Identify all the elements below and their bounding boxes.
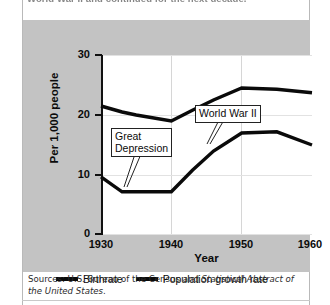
caption-text: World War II and continued for the next … <box>27 0 247 4</box>
figure-panel: 30 20 10 0 1930 1940 1950 1960 Per 1,000… <box>23 20 310 272</box>
annotation-great-depression: Great Depression <box>111 128 172 157</box>
bottom-rule <box>22 300 310 301</box>
source-note: Sources: U.S. Bureau of the Census and S… <box>28 274 306 297</box>
source-suffix: . <box>103 286 106 296</box>
annotation-world-war-ii: World War II <box>195 105 261 123</box>
source-prefix: Sources: U.S. Bureau of the Census and <box>28 274 202 284</box>
caption-strip: World War II and continued for the next … <box>22 0 310 13</box>
